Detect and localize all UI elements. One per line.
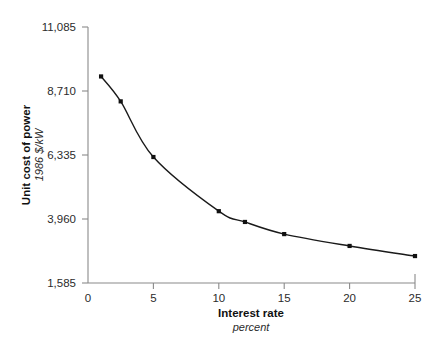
data-point-7 <box>413 254 417 258</box>
data-point-2 <box>151 155 155 159</box>
x-tick-label-0: 0 <box>85 292 91 304</box>
data-point-4 <box>243 220 247 224</box>
x-tick-label-5: 25 <box>409 292 422 304</box>
x-tick-label-4: 20 <box>343 292 356 304</box>
y-axis-title-main: Unit cost of power <box>20 104 32 205</box>
data-point-5 <box>282 232 286 236</box>
y-tick-label-4: 11,085 <box>42 21 76 33</box>
y-tick-label-3: 8,710 <box>47 85 76 97</box>
chart-figure: 1,5853,9606,3358,71011,085 0510152025 In… <box>0 0 436 350</box>
data-point-6 <box>348 244 352 248</box>
x-axis-title-sub: percent <box>232 321 271 333</box>
y-tick-label-0: 1,585 <box>47 277 76 289</box>
data-point-1 <box>119 99 123 103</box>
y-tick-label-2: 6,335 <box>47 149 76 161</box>
y-axis-title-sub: 1986 $/kW <box>33 127 45 181</box>
plot-area-background <box>88 27 415 283</box>
x-axis-title-main: Interest rate <box>218 307 284 319</box>
x-tick-label-1: 5 <box>150 292 156 304</box>
y-tick-label-1: 3,960 <box>47 213 76 225</box>
x-tick-label-3: 15 <box>278 292 291 304</box>
x-tick-label-2: 10 <box>212 292 225 304</box>
chart-canvas: 1,5853,9606,3358,71011,085 0510152025 In… <box>0 0 436 350</box>
data-point-0 <box>99 74 103 78</box>
data-point-3 <box>217 209 221 213</box>
